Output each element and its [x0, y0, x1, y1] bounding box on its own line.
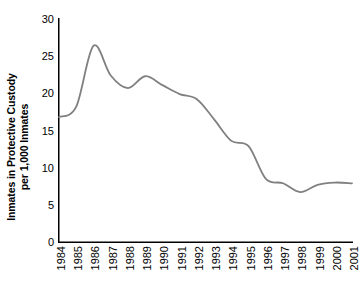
x-tick-label-text: 1995: [243, 246, 258, 270]
x-tick-label: 1990: [155, 246, 169, 290]
x-tick-label-text: 1989: [139, 246, 154, 270]
x-tick-label-text: 1986: [87, 246, 102, 270]
x-tick-label: 1993: [207, 246, 221, 290]
axis-spines: [59, 18, 353, 242]
x-tick-label: 1999: [311, 246, 325, 290]
x-tick-label: 1998: [293, 246, 307, 290]
x-tick-label: 1995: [242, 246, 256, 290]
x-tick-label: 1996: [259, 246, 273, 290]
plot-area: [58, 18, 353, 243]
x-tick-label-text: 2001: [346, 246, 361, 270]
data-series-line: [59, 45, 352, 192]
y-axis-title-text: Inmates in Protective Custody per 1,000 …: [5, 73, 31, 221]
x-tick-label: 1985: [69, 246, 83, 290]
x-tick-label: 1987: [104, 246, 118, 290]
x-tick-label: 1986: [86, 246, 100, 290]
chart-canvas: [58, 18, 353, 243]
y-axis-tick-labels: 051015202530: [30, 18, 54, 243]
x-tick-label: 2000: [328, 246, 342, 290]
x-tick-label-text: 1990: [156, 246, 171, 270]
y-tick-label: 25: [32, 50, 54, 62]
y-tick-label: 0: [32, 236, 54, 248]
x-tick-label-text: 1992: [191, 246, 206, 270]
x-tick-label: 1988: [121, 246, 135, 290]
x-tick-label-text: 1993: [208, 246, 223, 270]
y-tick-label: 30: [32, 13, 54, 25]
y-tick-label: 15: [32, 125, 54, 137]
x-tick-label-text: 1987: [105, 246, 120, 270]
chart-figure: Inmates in Protective Custody per 1,000 …: [0, 0, 361, 293]
y-tick-label: 20: [32, 87, 54, 99]
x-tick-label: 1984: [52, 246, 66, 290]
y-tick-label: 10: [32, 162, 54, 174]
x-tick-label: 1992: [190, 246, 204, 290]
x-tick-label-text: 1988: [122, 246, 137, 270]
y-tick-label: 5: [32, 199, 54, 211]
x-tick-label-text: 1997: [277, 246, 292, 270]
x-tick-label: 2001: [345, 246, 359, 290]
x-tick-label: 1989: [138, 246, 152, 290]
x-tick-label-text: 1984: [53, 246, 68, 270]
x-tick-label-text: 2000: [329, 246, 344, 270]
x-tick-label: 1991: [173, 246, 187, 290]
x-tick-label-text: 1985: [70, 246, 85, 270]
x-axis-tick-labels: 1984198519861987198819891990199119921993…: [58, 246, 353, 293]
x-tick-label-text: 1999: [312, 246, 327, 270]
x-tick-label-text: 1996: [260, 246, 275, 270]
x-tick-label-text: 1991: [174, 246, 189, 270]
y-axis-title-line1: Inmates in Protective Custody: [5, 73, 18, 221]
x-tick-label-text: 1998: [294, 246, 309, 270]
x-tick-label-text: 1994: [225, 246, 240, 270]
x-tick-label: 1994: [224, 246, 238, 290]
x-tick-label: 1997: [276, 246, 290, 290]
